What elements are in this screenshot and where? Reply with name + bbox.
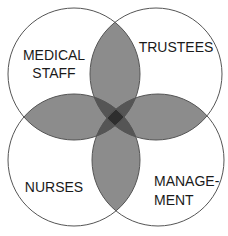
label-trustees: TRUSTEES [139,39,214,55]
label-management-line1: MANAGE- [154,173,220,189]
label-nurses: NURSES [25,179,83,195]
label-management-line2: MENT [154,192,194,208]
label-medical-staff-line2: STAFF [32,65,75,81]
venn-diagram: MEDICAL STAFF TRUSTEES NURSES MANAGE- ME… [0,0,228,236]
label-medical-staff-line1: MEDICAL [23,47,85,63]
